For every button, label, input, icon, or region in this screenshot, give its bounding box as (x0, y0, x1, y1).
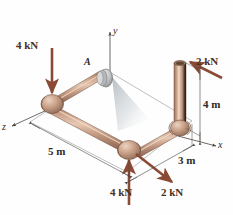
dimension-label-5m: 5 m (48, 146, 65, 157)
force-label-top-left: 4 kN (16, 40, 38, 51)
force-label-bottom-right: 2 kN (161, 187, 183, 198)
force-arrow-bottom-right (136, 154, 172, 182)
axis-label-x: x (218, 140, 222, 150)
pipe-segment-front-long (49, 105, 123, 150)
dimension-line-5m (32, 124, 129, 176)
elbow-joint-top-left (41, 95, 64, 114)
pipe-segment-rear-top (56, 71, 104, 104)
dimension-label-3m: 3 m (178, 155, 195, 166)
pipe-segment-vertical-riser (174, 61, 186, 127)
point-label-A: A (84, 57, 91, 67)
force-label-bottom-left: 4 kN (110, 187, 132, 198)
axis-x (178, 136, 216, 146)
pipe-assembly-figure: 4 kN 2 kN 4 kN 2 kN 5 m 4 m 3 m y x z A (0, 0, 233, 215)
elbow-joint-riser-base (169, 120, 191, 136)
axis-label-y: y (113, 26, 117, 36)
force-label-top-right: 2 kN (196, 56, 218, 67)
axis-label-z: z (2, 122, 6, 132)
flange-support-A (97, 69, 113, 87)
dimension-label-4m: 4 m (203, 99, 220, 110)
elbow-joint-bottom (118, 141, 141, 160)
cast-shadow (112, 77, 150, 131)
